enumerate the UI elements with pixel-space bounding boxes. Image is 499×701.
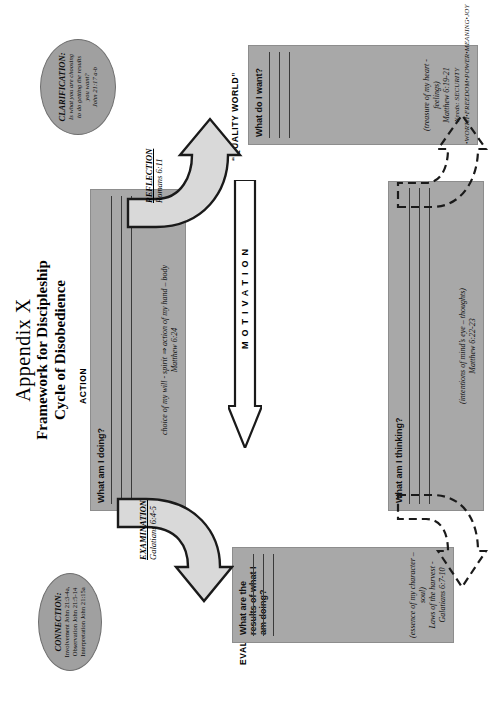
label-reflection: REFLECTION Romans 6:11 bbox=[144, 149, 164, 203]
page-canvas: Appendix X Framework for Discipleship Cy… bbox=[0, 0, 499, 701]
clarification-line-3: you want? bbox=[83, 73, 90, 100]
clarification-heading: CLARIFICATION: bbox=[57, 53, 67, 122]
rule-line bbox=[429, 188, 430, 504]
connection-line-3: Interpretation John 21:15a bbox=[79, 587, 86, 657]
rule-line bbox=[419, 188, 420, 504]
rule-line bbox=[131, 196, 132, 504]
action-rule-lines bbox=[111, 196, 141, 504]
callout-connection: CONNECTION: Involvement John 21:3-4a, Ob… bbox=[38, 573, 102, 671]
action-scripture: Matthew 6:24 bbox=[170, 328, 179, 373]
label-examination: EXAMINATION Galatians 6:4-5 bbox=[138, 500, 158, 560]
quality-world-rule-lines bbox=[269, 52, 299, 138]
reflection-arrow bbox=[112, 111, 244, 231]
title-appendix: Appendix X bbox=[12, 185, 34, 515]
clarification-body: Is what you are choosing to do getting t… bbox=[67, 48, 100, 126]
page-title: Appendix X Framework for Discipleship Cy… bbox=[12, 185, 70, 515]
quality-world-question: What do I want? bbox=[254, 68, 264, 137]
rule-line bbox=[111, 196, 112, 504]
action-box: What am I doing? choice of my will - spi… bbox=[90, 189, 186, 511]
clarification-line-4: John 21:17 a-b bbox=[91, 67, 98, 107]
connection-line-2: Observation John 21:5-14 bbox=[71, 588, 78, 657]
clarification-line-1: Is what you are choosing bbox=[67, 54, 74, 120]
callout-clarification: CLARIFICATION: Is what you are choosing … bbox=[40, 39, 116, 135]
rule-line bbox=[269, 52, 270, 138]
rule-line bbox=[273, 554, 274, 636]
connection-body: Involvement John 21:3-4a, Observation Jo… bbox=[63, 581, 88, 664]
examination-arrow bbox=[112, 493, 234, 605]
application-footnote: (intentions of mind’s eye – thoughts) Ma… bbox=[458, 182, 478, 510]
rule-line bbox=[289, 52, 290, 138]
examination-scripture: Galatians 6:4-5 bbox=[148, 500, 158, 560]
diagram-canvas: Appendix X Framework for Discipleship Cy… bbox=[0, 0, 499, 701]
rule-line bbox=[279, 52, 280, 138]
reflection-name: REFLECTION bbox=[144, 149, 154, 203]
dashed-arrow-right bbox=[392, 109, 488, 213]
action-question: What am I doing? bbox=[96, 428, 106, 503]
application-footnote-text: (intentions of mind’s eye – thoughts) bbox=[458, 288, 467, 404]
application-scripture: Matthew 6:22-23 bbox=[468, 318, 477, 373]
rule-line bbox=[253, 554, 254, 636]
rule-line bbox=[263, 554, 264, 636]
dashed-arrow-left bbox=[392, 489, 488, 593]
reflection-scripture: Romans 6:11 bbox=[154, 149, 164, 203]
examination-name: EXAMINATION bbox=[138, 500, 148, 560]
clarification-line-2: to do getting the results bbox=[75, 56, 82, 118]
action-footnote: choice of my will - spirit ⇒ action of m… bbox=[160, 190, 180, 510]
title-cycle: Cycle of Disobedience bbox=[52, 185, 70, 515]
action-footnote-text: choice of my will - spirit ⇒ action of m… bbox=[160, 265, 169, 435]
rule-line bbox=[409, 188, 410, 504]
title-framework: Framework for Discipleship bbox=[34, 185, 52, 515]
evaluation-rule-lines bbox=[253, 554, 283, 636]
application-rule-lines bbox=[409, 188, 439, 504]
application-box: What am I thinking? (intentions of mind’… bbox=[388, 181, 484, 511]
caption-action: ACTION bbox=[78, 368, 88, 404]
connection-line-1: Involvement John 21:3-4a, bbox=[63, 587, 70, 658]
connection-heading: CONNECTION: bbox=[53, 592, 63, 651]
rule-line bbox=[121, 196, 122, 504]
